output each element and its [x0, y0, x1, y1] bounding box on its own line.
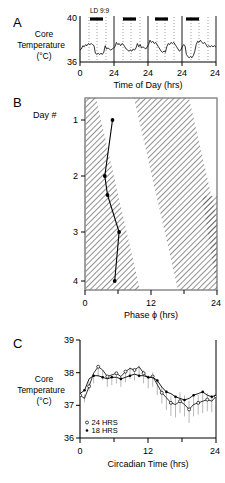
data-point [106, 193, 110, 197]
panel-b-ytick-1: 1 [73, 115, 78, 125]
panel-b-xtick-24: 24 [211, 298, 221, 308]
panel-b-ytick-3: 3 [73, 227, 78, 237]
panel-a: A Core Temperature (°C) LD 9:9 40 36 [13, 7, 220, 90]
panel-c-xtick-24: 24 [210, 446, 220, 456]
panel-b-ylabel: Day # [33, 110, 57, 120]
panel-b-ytick-4: 4 [73, 276, 78, 286]
figure-canvas: A Core Temperature (°C) LD 9:9 40 36 [0, 0, 225, 483]
legend-label-18hrs: 18 HRS [92, 426, 118, 435]
panel-c-ytick-37: 37 [64, 400, 74, 410]
panel-a-xtick-2: 24 [143, 68, 153, 78]
panel-c-ylabel-line-2: Temperature [17, 385, 65, 395]
panel-c-plot-area [79, 365, 218, 423]
panel-a-ylabel-line-3: (°C) [36, 51, 51, 61]
data-point [103, 174, 107, 178]
data-point [117, 230, 121, 234]
dark-band-2 [134, 98, 225, 290]
panel-c: C Core Temperature (°C) 39 38 37 36 [13, 335, 220, 469]
panel-c-ylabel-line-3: (°C) [36, 396, 51, 406]
panel-b-ytick-2: 2 [73, 171, 78, 181]
panel-b-xticks [85, 290, 217, 295]
panel-c-ytick-36: 36 [64, 433, 74, 443]
panel-b-xlabel: Phase ϕ (hrs) [124, 310, 178, 320]
panel-a-xtick-4: 24 [210, 68, 220, 78]
panel-a-ytick-36: 36 [67, 57, 77, 67]
panel-a-xtick-0: 0 [77, 68, 82, 78]
panel-a-minor-gridlines [89, 17, 208, 61]
data-point [113, 279, 117, 283]
panel-c-legend: 24 HRS 18 HRS [86, 418, 118, 435]
dark-band-1 [85, 98, 140, 290]
panel-a-ytick-40: 40 [67, 13, 77, 23]
panel-a-xticks [80, 62, 216, 66]
panel-c-xtick-12: 12 [143, 446, 153, 456]
panel-c-xlabel: Circadian Time (hrs) [107, 459, 188, 469]
panel-c-yticks [76, 340, 80, 438]
legend-marker-open-circle [86, 421, 89, 424]
panel-b-letter: B [13, 95, 22, 110]
panel-a-ylabel-line-1: Core [35, 29, 54, 39]
panel-c-xtick-0: 0 [77, 446, 82, 456]
panel-b: B Day # 1 2 3 4 [13, 95, 225, 320]
panel-b-xtick-12: 12 [146, 298, 156, 308]
scientific-figure: A Core Temperature (°C) LD 9:9 40 36 [0, 0, 225, 483]
legend-marker-filled-circle [86, 429, 89, 432]
panel-b-xtick-0: 0 [82, 298, 87, 308]
panel-a-letter: A [13, 15, 22, 30]
panel-c-letter: C [13, 336, 22, 351]
data-point [111, 118, 115, 122]
panel-a-xtick-3: 24 [177, 68, 187, 78]
panel-c-xticks [80, 438, 216, 443]
panel-b-yticks [81, 120, 85, 281]
panel-c-ytick-38: 38 [64, 368, 74, 378]
panel-c-ytick-39: 39 [64, 335, 74, 345]
panel-a-ylabel-line-2: Temperature [17, 40, 65, 50]
panel-c-ylabel-line-1: Core [35, 374, 54, 384]
panel-a-xtick-1: 24 [109, 68, 119, 78]
panel-a-xlabel: Time of Day (hrs) [113, 80, 182, 90]
panel-a-ld-annotation: LD 9:9 [90, 7, 110, 14]
